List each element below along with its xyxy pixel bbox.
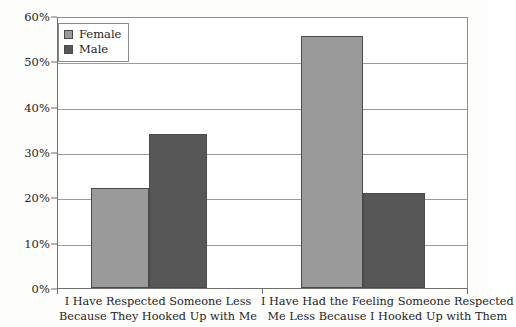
gridline-30	[58, 154, 467, 155]
y-tick-label-50: 50%	[6, 55, 50, 69]
y-tick-label-60: 60%	[6, 10, 50, 24]
bar-male-group2	[363, 193, 425, 288]
legend-label-female: Female	[79, 29, 121, 41]
x-axis: I Have Respected Someone Less Because Th…	[57, 292, 468, 327]
x-category-label-1-line-2: Because They Hooked Up with Me	[59, 310, 257, 325]
legend-item-male: Male	[64, 42, 121, 57]
y-tick-label-30: 30%	[6, 146, 50, 160]
x-category-label-2: I Have Had the Feeling Someone Respected…	[259, 292, 516, 327]
bar-female-group2	[301, 36, 363, 288]
y-axis: 60% 50% 40% 30% 20% 10% 0%	[0, 0, 50, 327]
legend-swatch-male-icon	[64, 45, 73, 54]
y-tick-label-20: 20%	[6, 191, 50, 205]
x-category-label-2-line-1: I Have Had the Feeling Someone Respected	[261, 295, 514, 310]
bar-male-group1	[149, 134, 207, 288]
legend: Female Male	[58, 23, 129, 62]
x-category-label-1: I Have Respected Someone Less Because Th…	[57, 292, 259, 327]
gridline-50	[58, 63, 467, 64]
legend-swatch-female-icon	[64, 30, 73, 39]
legend-item-female: Female	[64, 27, 121, 42]
x-category-label-2-line-2: Me Less Because I Hooked Up with Them	[261, 310, 514, 325]
y-tick-label-40: 40%	[6, 101, 50, 115]
bar-female-group1	[91, 188, 149, 288]
legend-label-male: Male	[79, 44, 108, 56]
y-tick-label-0: 0%	[6, 282, 50, 296]
y-tick-label-10: 10%	[6, 237, 50, 251]
x-category-label-1-line-1: I Have Respected Someone Less	[59, 295, 257, 310]
gridline-40	[58, 109, 467, 110]
